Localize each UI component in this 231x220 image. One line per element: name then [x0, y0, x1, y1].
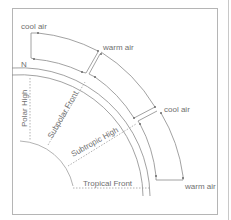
label-subpolar-front: Subpolar Front	[46, 89, 81, 140]
label-tropical-front: Tropical Front	[83, 179, 133, 188]
label-cool-air-top: cool air	[21, 22, 47, 31]
hadley-cell	[140, 113, 183, 180]
label-cool-air-right: cool air	[164, 105, 190, 114]
polar-cell	[31, 33, 98, 72]
atmospheric-circulation-diagram: cool air warm air cool air warm air N Po…	[0, 0, 231, 220]
label-north: N	[21, 60, 27, 69]
flow-dots	[33, 32, 184, 179]
label-warm-air-mid: warm air	[102, 43, 134, 52]
earth-core-arc	[20, 141, 73, 186]
label-polar-high: Polar High	[20, 90, 29, 127]
divider-polar-ferrel	[82, 52, 100, 77]
label-subtropic-high: Subtropic High	[70, 125, 120, 158]
label-warm-air-bottom: warm air	[184, 182, 216, 191]
earth-surface-outer-arc	[12, 68, 150, 196]
divider-ferrel-hadley	[134, 107, 157, 124]
